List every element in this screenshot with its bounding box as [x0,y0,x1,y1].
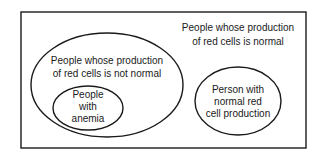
universe-label-line: of red cells is normal [192,36,284,47]
anemia-label-line: People [72,89,104,100]
normal-person-label-line: cell production [206,108,270,119]
anemia-label: People with anemia [72,89,105,124]
venn-diagram: People whose production of red cells is … [0,0,327,158]
anemia-label-line: with [78,101,97,112]
normal-production-person-label: Person with normal red cell production [206,84,270,119]
anemia-label-line: anemia [72,113,105,124]
universe-label: People whose production of red cells is … [182,22,294,47]
not-normal-production-ellipse [31,33,183,137]
universe-label-line: People whose production [182,22,294,33]
normal-person-label-line: Person with [212,84,264,95]
not-normal-label-line: of red cells is not normal [53,68,161,79]
not-normal-production-label: People whose production of red cells is … [51,55,163,79]
not-normal-label-line: People whose production [51,55,163,66]
normal-person-label-line: normal red [214,96,262,107]
